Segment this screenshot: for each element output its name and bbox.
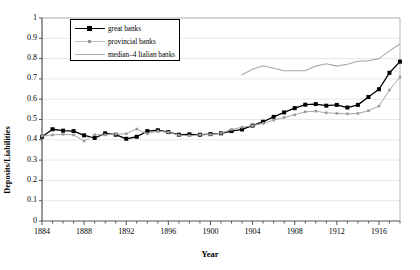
x-tick-label: 1900 (190, 227, 230, 236)
y-tick-label: 0.8 (15, 53, 37, 62)
x-tick-label: 1916 (359, 227, 399, 236)
legend-swatch-provincial-banks (75, 37, 105, 46)
x-tick-label: 1912 (317, 227, 357, 236)
chart-figure: Deposits/Liabilities Year 00.10.20.30.40… (0, 0, 420, 270)
legend-label-great-banks: great banks (108, 25, 141, 33)
y-tick-label: 1 (15, 13, 37, 22)
x-tick-label: 1888 (64, 227, 104, 236)
y-tick-label: 0.4 (15, 134, 37, 143)
legend-item-great-banks: great banks (75, 22, 141, 35)
x-tick-label: 1904 (233, 227, 273, 236)
y-tick-label: 0.9 (15, 33, 37, 42)
y-tick-label: 0 (15, 216, 37, 225)
y-tick-label: 0.6 (15, 94, 37, 103)
y-tick-label: 0.5 (15, 114, 37, 123)
y-tick-label: 0.1 (15, 195, 37, 204)
legend-swatch-median-italian-banks (75, 50, 105, 59)
legend-label-provincial-banks: provincial banks (108, 38, 156, 46)
legend-swatch-great-banks (75, 24, 105, 33)
y-tick-label: 0.2 (15, 175, 37, 184)
legend-label-median-italian-banks: median–4 Italian banks (108, 51, 175, 59)
legend: great banks provincial banks median–4 It… (70, 19, 180, 61)
x-tick-label: 1908 (275, 227, 315, 236)
x-tick-label: 1892 (106, 227, 146, 236)
y-axis-label: Deposits/Liabilities (3, 95, 12, 225)
x-axis-label: Year (0, 249, 420, 259)
x-tick-label: 1884 (22, 227, 62, 236)
legend-item-median-italian-banks: median–4 Italian banks (75, 48, 175, 61)
x-tick-label: 1896 (148, 227, 188, 236)
y-tick-label: 0.7 (15, 73, 37, 82)
legend-item-provincial-banks: provincial banks (75, 35, 156, 48)
y-tick-label: 0.3 (15, 155, 37, 164)
